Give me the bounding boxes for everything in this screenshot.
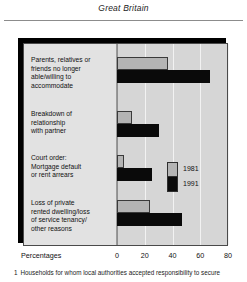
category-label-line: Court order: [31,154,115,163]
category-label-line: or rent arrears [31,171,115,180]
x-tick-80: 80 [224,251,232,260]
category-label: Breakdown ofrelationshipwith partner [31,110,115,136]
bar-chart: Parents, relatives orfriends no longerab… [18,38,232,248]
category-label-line: friends no longer [31,65,115,74]
bar-1991 [117,124,159,137]
category-label-line: other reasons [31,225,115,234]
legend-swatch-1981 [167,162,178,177]
bar-1981 [117,111,132,124]
category-label-line: rented dwelling/loss [31,208,115,217]
x-tick-0: 0 [115,251,119,260]
footnote: 1Households for whom local authorities a… [14,269,246,277]
bar-1991 [117,213,182,226]
category-label-line: relationship [31,119,115,128]
x-tick-60: 60 [196,251,204,260]
category-label-line: Loss of private [31,199,115,208]
category-label-panel: Parents, relatives orfriends no longerab… [24,44,117,245]
chart-frame: Parents, relatives orfriends no longerab… [23,43,228,246]
legend: 19811991 [167,162,227,192]
plot-area [117,44,227,245]
page-title: Great Britain [0,3,247,13]
x-tick-20: 20 [141,251,149,260]
legend-label-1991: 1991 [183,180,199,187]
legend-swatch-1991 [167,177,178,192]
bar-1981 [117,155,124,168]
legend-label-1981: 1981 [183,165,199,172]
category-label-line: with partner [31,127,115,136]
header-divider [4,20,243,21]
category-label-line: able/willing to [31,73,115,82]
category-label: Parents, relatives orfriends no longerab… [31,56,115,90]
footnote-marker: 1 [14,269,18,277]
bar-1991 [117,168,152,181]
category-label-line: Breakdown of [31,110,115,119]
x-axis: Percentages 020406080 [18,250,232,264]
category-label: Court order:Mortgage defaultor rent arre… [31,154,115,180]
footnote-text: Households for whom local authorities ac… [21,269,221,276]
category-label-line: of service tenancy/ [31,216,115,225]
bar-1981 [117,57,168,70]
legend-item-1991: 1991 [167,177,227,192]
legend-item-1981: 1981 [167,162,227,177]
bar-1981 [117,200,150,213]
category-label: Loss of privaterented dwelling/lossof se… [31,199,115,233]
x-tick-40: 40 [169,251,177,260]
bar-1991 [117,70,210,83]
x-axis-title: Percentages [21,251,61,260]
category-label-line: accommodate [31,82,115,91]
gridline-80 [228,44,229,245]
category-label-line: Mortgage default [31,163,115,172]
category-label-line: Parents, relatives or [31,56,115,65]
